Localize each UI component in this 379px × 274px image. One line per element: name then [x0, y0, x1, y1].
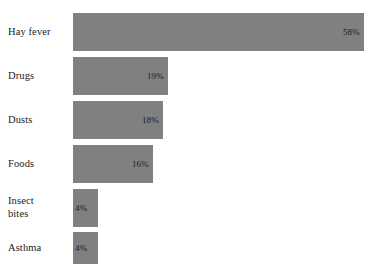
- bar-asthma: 4%: [73, 232, 98, 264]
- bar-dusts: 18%: [73, 101, 163, 139]
- category-label-foods: Foods: [8, 158, 70, 171]
- category-label-drugs: Drugs: [8, 70, 70, 83]
- bar-row: Dusts 18%: [0, 101, 379, 139]
- bar-row: Asthma 4%: [0, 232, 379, 264]
- category-label-line: Insect: [8, 195, 70, 208]
- bar-row: Hay fever 58%: [0, 13, 379, 51]
- bar-row: Drugs 19%: [0, 57, 379, 95]
- category-label-line: Dusts: [8, 114, 32, 125]
- bar-hay-fever: 58%: [73, 13, 364, 51]
- category-label-asthma: Asthma: [8, 242, 70, 255]
- bar-track: 4%: [73, 232, 98, 264]
- bar-track: 16%: [73, 145, 153, 183]
- category-label-line: bites: [8, 208, 70, 221]
- bar-value-asthma: 4%: [75, 243, 87, 253]
- bar-row: Foods 16%: [0, 145, 379, 183]
- category-label-line: Foods: [8, 158, 34, 169]
- bar-drugs: 19%: [73, 57, 168, 95]
- bar-row: Insect bites 4%: [0, 189, 379, 227]
- bar-value-hay-fever: 58%: [343, 27, 360, 37]
- bar-track: 18%: [73, 101, 163, 139]
- category-label-line: Hay fever: [8, 26, 51, 37]
- category-label-line: Drugs: [8, 70, 34, 81]
- bar-value-insect-bites: 4%: [75, 203, 87, 213]
- category-label-insect-bites: Insect bites: [8, 195, 70, 220]
- bar-value-drugs: 19%: [147, 71, 164, 81]
- bar-track: 4%: [73, 189, 98, 227]
- category-label-dusts: Dusts: [8, 114, 70, 127]
- bar-value-foods: 16%: [132, 159, 149, 169]
- bar-chart: Hay fever 58% Drugs 19% Dusts 18% F: [0, 0, 379, 274]
- bar-track: 58%: [73, 13, 364, 51]
- bar-track: 19%: [73, 57, 168, 95]
- bar-insect-bites: 4%: [73, 189, 98, 227]
- category-label-hay-fever: Hay fever: [8, 26, 70, 39]
- category-label-line: Asthma: [8, 242, 41, 253]
- bar-foods: 16%: [73, 145, 153, 183]
- bar-value-dusts: 18%: [142, 115, 159, 125]
